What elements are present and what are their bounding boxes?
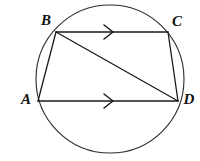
geometry-canvas: A B C D: [0, 0, 200, 161]
segment-bd-diagonal: [56, 32, 178, 101]
segment-ab: [38, 32, 56, 101]
circumscribed-circle: [36, 5, 184, 153]
vertex-label-b: B: [40, 12, 51, 28]
vertex-label-c: C: [172, 13, 183, 29]
segment-cd: [168, 32, 178, 101]
vertex-label-d: D: [183, 91, 195, 107]
geometry-figure: A B C D: [0, 0, 200, 161]
vertex-label-a: A: [20, 91, 31, 107]
